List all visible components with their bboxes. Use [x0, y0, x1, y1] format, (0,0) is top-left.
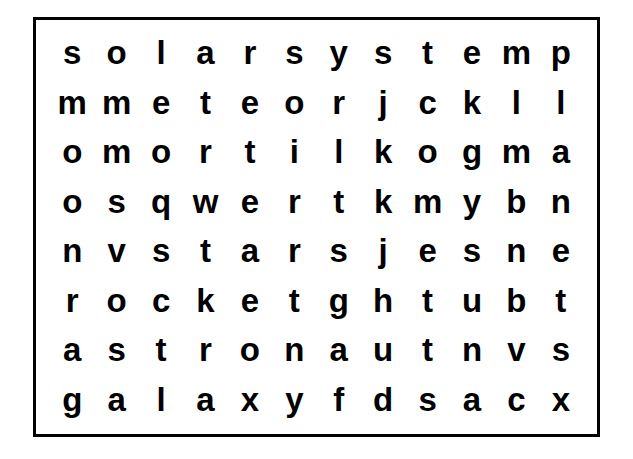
- grid-letter[interactable]: a: [450, 383, 494, 416]
- grid-letter[interactable]: g: [317, 284, 361, 317]
- grid-letter[interactable]: c: [139, 284, 183, 317]
- grid-letter[interactable]: e: [139, 86, 183, 119]
- grid-letter[interactable]: c: [494, 383, 538, 416]
- grid-letter[interactable]: x: [228, 383, 272, 416]
- grid-letter[interactable]: g: [450, 135, 494, 168]
- grid-letter[interactable]: e: [405, 234, 449, 267]
- grid-letter[interactable]: q: [139, 185, 183, 218]
- grid-letter[interactable]: s: [139, 234, 183, 267]
- grid-letter[interactable]: s: [450, 234, 494, 267]
- grid-letter[interactable]: j: [361, 234, 405, 267]
- grid-letter[interactable]: o: [94, 36, 138, 69]
- grid-letter[interactable]: o: [50, 135, 94, 168]
- grid-letter[interactable]: e: [450, 36, 494, 69]
- grid-letter[interactable]: s: [272, 36, 316, 69]
- grid-letter[interactable]: m: [405, 185, 449, 218]
- grid-letter[interactable]: i: [272, 135, 316, 168]
- grid-letter[interactable]: l: [139, 36, 183, 69]
- grid-letter[interactable]: a: [50, 333, 94, 366]
- grid-letter[interactable]: a: [539, 135, 583, 168]
- grid-letter[interactable]: y: [317, 36, 361, 69]
- grid-letter[interactable]: s: [405, 383, 449, 416]
- grid-letter[interactable]: s: [94, 333, 138, 366]
- grid-letter[interactable]: r: [228, 36, 272, 69]
- grid-letter[interactable]: d: [361, 383, 405, 416]
- grid-letter[interactable]: l: [539, 86, 583, 119]
- grid-letter[interactable]: e: [228, 284, 272, 317]
- grid-letter[interactable]: n: [494, 234, 538, 267]
- grid-letter[interactable]: x: [539, 383, 583, 416]
- grid-letter[interactable]: o: [272, 86, 316, 119]
- grid-letter[interactable]: n: [50, 234, 94, 267]
- grid-letter[interactable]: o: [228, 333, 272, 366]
- grid-letter[interactable]: t: [317, 185, 361, 218]
- grid-letter[interactable]: u: [361, 333, 405, 366]
- grid-letter[interactable]: r: [272, 185, 316, 218]
- grid-letter[interactable]: l: [317, 135, 361, 168]
- grid-letter[interactable]: t: [272, 284, 316, 317]
- grid-letter[interactable]: t: [228, 135, 272, 168]
- grid-letter[interactable]: r: [183, 135, 227, 168]
- grid-letter[interactable]: h: [361, 284, 405, 317]
- table-row: n v s t a r s j e s n e: [50, 226, 583, 276]
- grid-letter[interactable]: g: [50, 383, 94, 416]
- table-row: r o c k e t g h t u b t: [50, 276, 583, 326]
- grid-letter[interactable]: t: [183, 234, 227, 267]
- grid-letter[interactable]: r: [183, 333, 227, 366]
- grid-letter[interactable]: y: [450, 185, 494, 218]
- grid-letter[interactable]: u: [450, 284, 494, 317]
- grid-letter[interactable]: a: [183, 36, 227, 69]
- grid-letter[interactable]: v: [94, 234, 138, 267]
- grid-letter[interactable]: f: [317, 383, 361, 416]
- grid-letter[interactable]: b: [494, 185, 538, 218]
- grid-letter[interactable]: t: [139, 333, 183, 366]
- grid-letter[interactable]: m: [94, 135, 138, 168]
- grid-letter[interactable]: m: [494, 36, 538, 69]
- grid-letter[interactable]: s: [361, 36, 405, 69]
- grid-letter[interactable]: a: [228, 234, 272, 267]
- grid-letter[interactable]: t: [183, 86, 227, 119]
- grid-letter[interactable]: m: [494, 135, 538, 168]
- grid-letter[interactable]: e: [539, 234, 583, 267]
- grid-letter[interactable]: a: [94, 383, 138, 416]
- grid-letter[interactable]: r: [50, 284, 94, 317]
- grid-letter[interactable]: t: [405, 36, 449, 69]
- grid-letter[interactable]: y: [272, 383, 316, 416]
- grid-letter[interactable]: w: [183, 185, 227, 218]
- grid-letter[interactable]: k: [361, 135, 405, 168]
- grid-letter[interactable]: k: [183, 284, 227, 317]
- grid-letter[interactable]: k: [361, 185, 405, 218]
- grid-letter[interactable]: j: [361, 86, 405, 119]
- grid-letter[interactable]: o: [139, 135, 183, 168]
- grid-letter[interactable]: e: [228, 86, 272, 119]
- grid-letter[interactable]: o: [94, 284, 138, 317]
- grid-letter[interactable]: a: [183, 383, 227, 416]
- grid-letter[interactable]: t: [405, 284, 449, 317]
- grid-letter[interactable]: n: [539, 185, 583, 218]
- grid-letter[interactable]: t: [405, 333, 449, 366]
- grid-letter[interactable]: e: [228, 185, 272, 218]
- grid-letter[interactable]: m: [94, 86, 138, 119]
- grid-letter[interactable]: s: [50, 36, 94, 69]
- grid-letter[interactable]: t: [539, 284, 583, 317]
- grid-letter[interactable]: b: [494, 284, 538, 317]
- grid-letter[interactable]: p: [539, 36, 583, 69]
- grid-letter[interactable]: r: [317, 86, 361, 119]
- grid-letter[interactable]: n: [272, 333, 316, 366]
- grid-letter[interactable]: n: [450, 333, 494, 366]
- table-row: o s q w e r t k m y b n: [50, 177, 583, 227]
- grid-letter[interactable]: r: [272, 234, 316, 267]
- grid-letter[interactable]: v: [494, 333, 538, 366]
- grid-letter[interactable]: l: [139, 383, 183, 416]
- grid-letter[interactable]: c: [405, 86, 449, 119]
- grid-letter[interactable]: s: [94, 185, 138, 218]
- grid-letter[interactable]: o: [405, 135, 449, 168]
- grid-letter[interactable]: s: [317, 234, 361, 267]
- grid-letter[interactable]: l: [494, 86, 538, 119]
- grid-letter[interactable]: o: [50, 185, 94, 218]
- grid-letter[interactable]: k: [450, 86, 494, 119]
- grid-letter[interactable]: a: [317, 333, 361, 366]
- grid-letter[interactable]: m: [50, 86, 94, 119]
- table-row: a s t r o n a u t n v s: [50, 325, 583, 375]
- grid-letter[interactable]: s: [539, 333, 583, 366]
